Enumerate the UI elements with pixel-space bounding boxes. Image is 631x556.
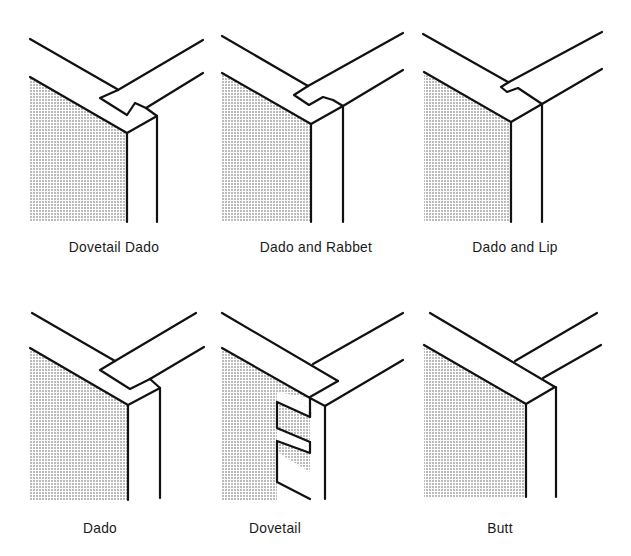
dovetail-diagram: [222, 313, 403, 500]
label-dado: Dado: [8, 519, 192, 536]
label-butt: Butt: [408, 519, 592, 536]
dado-and-lip-diagram: [423, 32, 602, 222]
joint-diagram-canvas: [0, 0, 631, 556]
label-dado-and-lip: Dado and Lip: [423, 238, 607, 255]
dovetail-dado-diagram: [30, 39, 203, 222]
dado-diagram: [30, 313, 204, 500]
butt-diagram: [424, 313, 601, 497]
label-dado-and-rabbet: Dado and Rabbet: [224, 238, 408, 255]
dado-and-rabbet-diagram: [222, 33, 403, 222]
label-dovetail-dado: Dovetail Dado: [22, 238, 206, 255]
label-dovetail: Dovetail: [183, 519, 367, 536]
